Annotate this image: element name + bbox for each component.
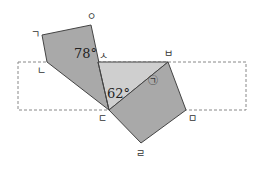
angle-78-label: 78° xyxy=(74,46,97,61)
folded-paper-diagram: 78° 62° ㉠ ㄱ ㅇ ㅅ ㄴ ㄷ ㅂ ㅁ ㄹ xyxy=(0,0,259,173)
unknown-angle-marker: ㉠ xyxy=(148,75,158,86)
vertex-label-ieung: ㅇ xyxy=(87,11,96,22)
angle-62-label: 62° xyxy=(107,86,130,101)
vertex-label-mieum: ㅁ xyxy=(188,113,197,124)
vertex-label-siot: ㅅ xyxy=(99,50,108,61)
vertex-label-rieul: ㄹ xyxy=(136,148,145,159)
vertex-label-bieup: ㅂ xyxy=(164,48,173,59)
vertex-label-giyeok: ㄱ xyxy=(31,29,40,40)
vertex-label-nieun: ㄴ xyxy=(37,65,46,76)
vertex-label-digeut: ㄷ xyxy=(98,113,107,124)
